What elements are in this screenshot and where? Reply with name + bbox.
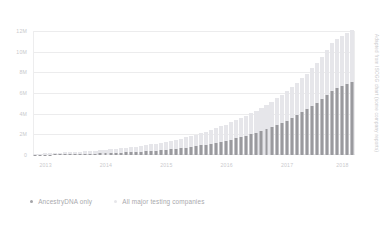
y-axis-tick-label: 6M xyxy=(19,90,27,96)
y-axis-tick-label: 4M xyxy=(19,111,27,117)
bar-ancestrydna xyxy=(240,137,243,155)
bar-ancestrydna xyxy=(335,88,338,155)
bar-ancestrydna xyxy=(285,121,288,155)
bar-ancestrydna xyxy=(310,106,313,155)
bar-ancestrydna xyxy=(99,153,102,155)
legend-item-ancestrydna[interactable]: AncestryDNA only xyxy=(30,198,92,205)
bar-ancestrydna xyxy=(250,134,253,155)
bar-ancestrydna xyxy=(315,103,318,155)
y-axis-tick-label: 0 xyxy=(24,152,27,158)
chart-legend: AncestryDNA only All major testing compa… xyxy=(30,198,226,205)
bar-ancestrydna xyxy=(300,112,303,155)
bar-ancestrydna xyxy=(84,154,87,155)
chart-container: 02M4M6M8M10M12M 201320142015201620172018… xyxy=(0,0,383,226)
bar-ancestrydna xyxy=(220,142,223,155)
legend-dot-dark-icon xyxy=(30,200,33,203)
bar-ancestrydna xyxy=(164,150,167,155)
bar-ancestrydna xyxy=(305,109,308,155)
legend-dot-light-icon xyxy=(114,200,117,203)
bar-ancestrydna xyxy=(79,154,82,155)
y-axis-tick-label: 8M xyxy=(19,69,27,75)
bar-ancestrydna xyxy=(89,154,92,155)
bar-ancestrydna xyxy=(109,153,112,155)
x-axis-tick-label: 2016 xyxy=(221,162,233,168)
bar-ancestrydna xyxy=(290,118,293,155)
bar-ancestrydna xyxy=(280,123,283,155)
chart-credit-note: Adapted from ISOGG chart (some company r… xyxy=(374,31,379,155)
bar-ancestrydna xyxy=(351,82,354,155)
y-axis-tick-label: 2M xyxy=(19,131,27,137)
x-axis-tick-label: 2018 xyxy=(336,162,348,168)
bar-ancestrydna xyxy=(200,145,203,155)
bar-ancestrydna xyxy=(325,95,328,155)
bar-ancestrydna xyxy=(330,91,333,155)
bar-ancestrydna xyxy=(64,154,67,155)
bar-ancestrydna xyxy=(230,140,233,155)
x-axis-tick-label: 2017 xyxy=(281,162,293,168)
bar-ancestrydna xyxy=(190,147,193,155)
legend-label: AncestryDNA only xyxy=(38,198,92,205)
bar-ancestrydna xyxy=(39,155,42,156)
legend-label: All major testing companies xyxy=(122,198,204,205)
bar-ancestrydna xyxy=(119,153,122,155)
bar-ancestrydna xyxy=(225,141,228,155)
bar-ancestrydna xyxy=(235,138,238,155)
bar-ancestrydna xyxy=(340,86,343,155)
x-axis-tick-label: 2014 xyxy=(100,162,112,168)
plot-area: 02M4M6M8M10M12M 201320142015201620172018 xyxy=(33,31,355,155)
bar-ancestrydna xyxy=(245,136,248,155)
bar-ancestrydna xyxy=(205,145,208,155)
bar-ancestrydna xyxy=(159,150,162,155)
bar-ancestrydna xyxy=(114,153,117,155)
x-axis-tick-label: 2015 xyxy=(160,162,172,168)
bar-ancestrydna xyxy=(124,152,127,155)
y-axis-tick-label: 12M xyxy=(16,28,27,34)
bar-ancestrydna xyxy=(54,154,57,155)
bar-ancestrydna xyxy=(49,155,52,156)
bar-ancestrydna xyxy=(174,149,177,155)
bar-ancestrydna xyxy=(210,144,213,155)
bar-ancestrydna xyxy=(94,154,97,155)
y-axis-tick-label: 10M xyxy=(16,49,27,55)
bar-ancestrydna xyxy=(59,154,62,155)
bar-ancestrydna xyxy=(169,149,172,155)
bar-ancestrydna xyxy=(129,152,132,155)
bar-ancestrydna xyxy=(346,84,349,155)
bar-ancestrydna xyxy=(215,143,218,155)
bar-ancestrydna xyxy=(179,148,182,155)
bar-ancestrydna xyxy=(139,152,142,155)
bar-ancestrydna xyxy=(134,152,137,155)
bar-ancestrydna xyxy=(104,153,107,155)
bar-ancestrydna xyxy=(185,148,188,155)
bar-ancestrydna xyxy=(34,155,37,156)
bar-ancestrydna xyxy=(255,133,258,155)
bar-ancestrydna xyxy=(44,155,47,156)
bar-ancestrydna xyxy=(260,131,263,155)
bar-ancestrydna xyxy=(275,125,278,155)
bar-ancestrydna xyxy=(74,154,77,155)
bar-ancestrydna xyxy=(265,129,268,155)
bar-ancestrydna xyxy=(195,146,198,155)
bar-ancestrydna xyxy=(69,154,72,155)
bar-ancestrydna xyxy=(320,99,323,155)
bar-ancestrydna xyxy=(270,127,273,155)
x-axis-tick-label: 2013 xyxy=(39,162,51,168)
legend-item-all-companies[interactable]: All major testing companies xyxy=(114,198,204,205)
bar-series-group xyxy=(33,31,355,155)
bar-ancestrydna xyxy=(154,151,157,155)
bar-ancestrydna xyxy=(144,151,147,155)
bar-ancestrydna xyxy=(295,115,298,155)
bar-ancestrydna xyxy=(149,151,152,155)
